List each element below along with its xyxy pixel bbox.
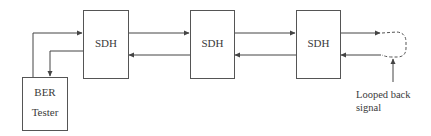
sdh-node-2: SDH bbox=[190, 10, 235, 79]
sdh-node-2-label: SDH bbox=[191, 37, 234, 49]
sdh-node-3-label: SDH bbox=[297, 37, 340, 49]
sdh1-to-ber-line bbox=[50, 51, 83, 76]
diagram-canvas: SDH SDH SDH BER Tester Looped back signa… bbox=[0, 0, 431, 136]
loopback-dashed-curve bbox=[382, 32, 406, 57]
sdh-node-1: SDH bbox=[83, 10, 129, 79]
loopback-annotation: Looped back signal bbox=[356, 88, 411, 114]
ber-tester-label-line1: BER bbox=[23, 86, 67, 98]
ber-tester-label-line2: Tester bbox=[23, 106, 67, 118]
annotation-line1: Looped back bbox=[356, 88, 411, 101]
ber-tester-node: BER Tester bbox=[22, 77, 68, 131]
annotation-line2: signal bbox=[356, 101, 411, 114]
ber-to-sdh1-line bbox=[33, 33, 82, 77]
sdh-node-3: SDH bbox=[296, 10, 341, 79]
sdh-node-1-label: SDH bbox=[84, 37, 128, 49]
